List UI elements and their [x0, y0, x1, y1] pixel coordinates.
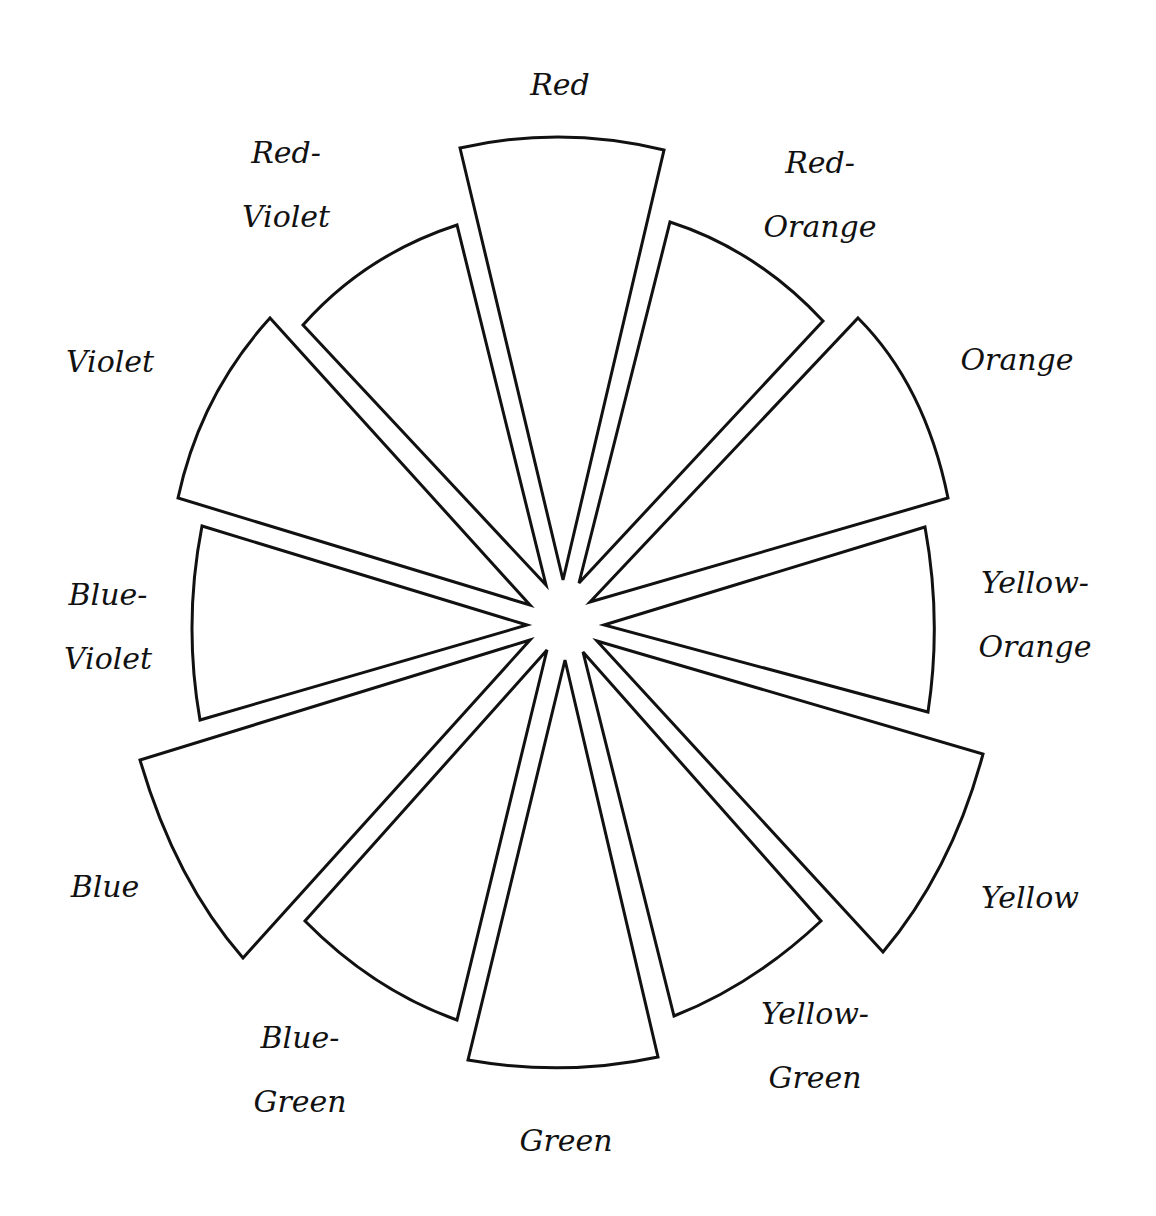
- label-violet: Violet: [66, 347, 154, 377]
- label-line: Green: [761, 1063, 869, 1093]
- label-blue-green: Blue-Green: [253, 1023, 346, 1117]
- label-line: Green: [519, 1126, 612, 1156]
- wedge-group: [140, 137, 983, 1068]
- label-yellow-green: Yellow-Green: [761, 999, 869, 1093]
- label-line: Yellow-: [761, 999, 869, 1029]
- label-blue: Blue: [71, 872, 140, 902]
- label-line: Green: [253, 1087, 346, 1117]
- label-red: Red: [530, 70, 590, 100]
- label-yellow: Yellow: [981, 883, 1079, 913]
- label-green: Green: [519, 1126, 612, 1156]
- label-line: Orange: [960, 345, 1073, 375]
- label-line: Red-: [763, 148, 876, 178]
- label-line: Red: [530, 70, 590, 100]
- label-line: Yellow: [981, 883, 1079, 913]
- label-line: Violet: [242, 202, 330, 232]
- label-blue-violet: Blue-Violet: [64, 580, 152, 674]
- label-line: Blue-: [253, 1023, 346, 1053]
- label-line: Red-: [242, 138, 330, 168]
- label-orange: Orange: [960, 345, 1073, 375]
- label-line: Orange: [978, 632, 1091, 662]
- label-red-orange: Red-Orange: [763, 148, 876, 242]
- label-red-violet: Red-Violet: [242, 138, 330, 232]
- label-line: Violet: [64, 644, 152, 674]
- label-line: Blue: [71, 872, 140, 902]
- label-line: Orange: [763, 212, 876, 242]
- label-line: Violet: [66, 347, 154, 377]
- label-line: Yellow-: [978, 568, 1091, 598]
- label-line: Blue-: [64, 580, 152, 610]
- label-yellow-orange: Yellow-Orange: [978, 568, 1091, 662]
